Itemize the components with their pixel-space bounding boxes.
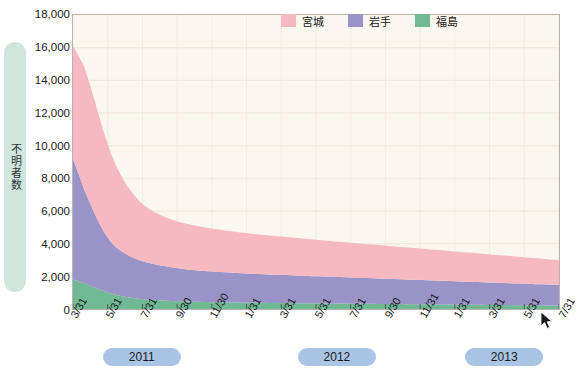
figure-caption xyxy=(4,370,444,376)
y-tick-label: 12,000 xyxy=(4,107,70,119)
legend-item-福島: 福島 xyxy=(415,13,458,29)
year-pill-label: 2013 xyxy=(491,350,518,364)
year-pill-label: 2011 xyxy=(129,350,155,364)
legend-label: 宮城 xyxy=(302,13,324,29)
legend-swatch-icon xyxy=(281,14,296,27)
legend-swatch-icon xyxy=(348,14,363,27)
legend-label: 福島 xyxy=(436,13,458,29)
year-pill-label: 2012 xyxy=(324,350,351,364)
legend: 宮城岩手福島 xyxy=(281,13,482,28)
year-pill-2012: 2012 xyxy=(298,348,376,366)
legend-item-宮城: 宮城 xyxy=(281,13,324,29)
y-tick-label: 2,000 xyxy=(4,271,70,283)
y-tick-label: 16,000 xyxy=(4,41,70,53)
legend-label: 岩手 xyxy=(369,13,391,29)
legend-item-岩手: 岩手 xyxy=(348,13,391,29)
y-tick-label: 14,000 xyxy=(4,74,70,86)
stacked-area-svg xyxy=(73,15,559,309)
y-tick-label: 4,000 xyxy=(4,238,70,250)
year-pill-2013: 2013 xyxy=(465,348,543,366)
y-tick-label: 18,000 xyxy=(4,8,70,20)
legend-swatch-icon xyxy=(415,14,430,27)
y-tick-label: 10,000 xyxy=(4,140,70,152)
plot-area xyxy=(72,14,560,310)
y-tick-label: 8,000 xyxy=(4,172,70,184)
year-pills: 201120122013 xyxy=(0,348,569,368)
year-pill-2011: 2011 xyxy=(103,348,181,366)
mouse-cursor-icon xyxy=(541,312,555,330)
y-tick-label: 6,000 xyxy=(4,205,70,217)
